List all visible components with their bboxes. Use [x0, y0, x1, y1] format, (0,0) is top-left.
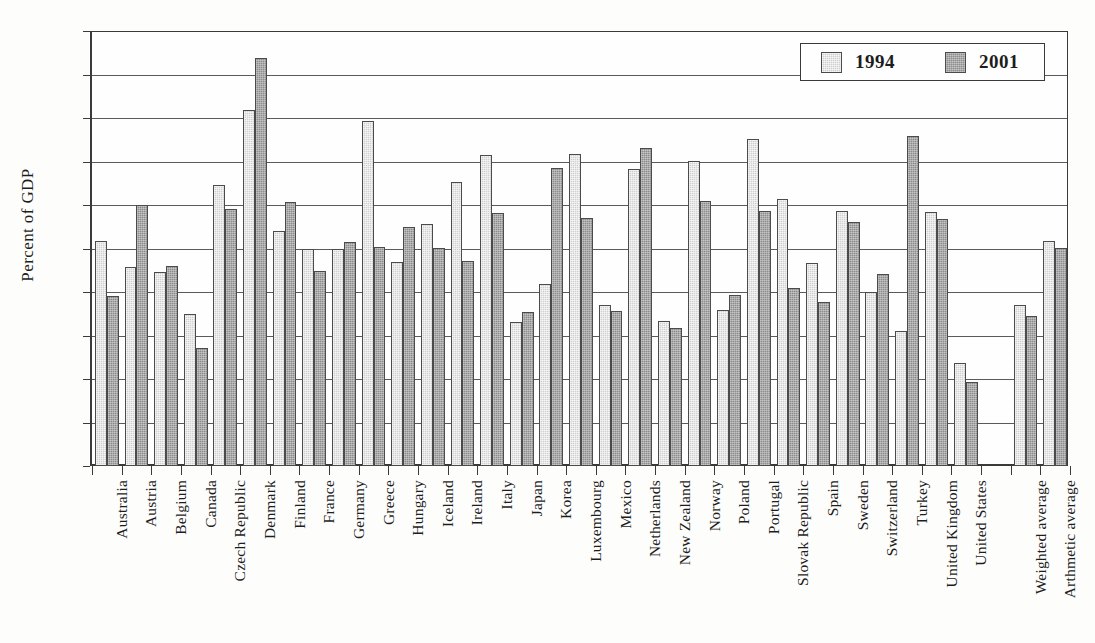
bar-group	[714, 32, 744, 466]
bar-group	[477, 32, 507, 466]
bar-2001	[729, 295, 741, 466]
y-axis-tick-mark	[83, 423, 90, 424]
bar-group	[655, 32, 685, 466]
x-axis-tick-label: Ireland	[468, 480, 486, 525]
x-axis-tick-mark	[329, 466, 330, 475]
bar-2001	[788, 288, 800, 466]
bar-1994	[391, 262, 403, 466]
y-axis-tick-mark	[83, 466, 90, 467]
bar-group	[566, 32, 596, 466]
bar-2001	[1026, 316, 1038, 467]
bar-1994	[510, 322, 522, 466]
x-axis-tick-mark	[685, 466, 686, 475]
bar-group	[1011, 32, 1041, 466]
legend-item-2001: 2001	[945, 51, 1019, 73]
x-axis-tick-label: Netherlands	[646, 480, 664, 557]
bar-1994	[836, 211, 848, 466]
bar-group	[270, 32, 300, 466]
bar-group	[240, 32, 270, 466]
x-axis-tick-mark	[714, 466, 715, 475]
x-axis-tick-mark	[151, 466, 152, 475]
x-axis-tick-mark	[270, 466, 271, 475]
x-axis-tick-mark	[418, 466, 419, 475]
x-axis-tick-mark	[181, 466, 182, 475]
bar-2001	[344, 242, 356, 466]
bar-group	[92, 32, 122, 466]
x-axis-tick-mark	[596, 466, 597, 475]
x-axis-tick-label: Finland	[291, 480, 309, 529]
bar-1994	[1043, 241, 1055, 466]
x-axis-tick-mark	[507, 466, 508, 475]
x-axis-tick-mark	[211, 466, 212, 475]
x-axis-tick-mark	[803, 466, 804, 475]
legend-swatch-2001-icon	[945, 52, 966, 73]
bar-2001	[492, 213, 504, 466]
y-axis-tick-mark	[83, 31, 90, 32]
x-axis-tick-mark	[774, 466, 775, 475]
x-axis-tick-label: Arthmetic average	[1061, 480, 1079, 598]
x-axis-tick-mark	[892, 466, 893, 475]
x-axis-tick-mark	[863, 466, 864, 475]
x-axis-tick-label: Luxembourg	[587, 480, 605, 562]
bar-group	[507, 32, 537, 466]
legend-item-1994: 1994	[821, 51, 895, 73]
x-axis-tick-label: Turkey	[913, 480, 931, 525]
bar-group	[537, 32, 567, 466]
x-axis-tick-label: Czech Republic	[231, 480, 249, 581]
bar-series-container	[92, 32, 1067, 466]
bar-2001	[107, 296, 119, 466]
x-axis-tick-mark	[240, 466, 241, 475]
x-axis-tick-label: Switzerland	[883, 480, 901, 556]
bar-2001	[166, 266, 178, 466]
bar-1994	[806, 263, 818, 466]
y-axis-tick-mark	[83, 118, 90, 119]
x-axis-tick-mark	[1011, 466, 1012, 475]
y-axis-tick-mark	[83, 75, 90, 76]
bar-2001	[225, 209, 237, 466]
y-axis-tick-mark	[83, 162, 90, 163]
bar-2001	[848, 222, 860, 466]
bar-group	[981, 32, 1011, 466]
x-axis-tick-mark	[951, 466, 952, 475]
bar-group	[625, 32, 655, 466]
x-axis-tick-label: New Zealand	[676, 480, 694, 565]
bar-1994	[243, 110, 255, 466]
x-axis-tick-mark	[1070, 466, 1071, 475]
bar-2001	[285, 202, 297, 466]
bar-2001	[1055, 248, 1067, 466]
bar-2001	[551, 168, 563, 466]
x-axis-tick-label: Weighted average	[1032, 480, 1050, 594]
x-axis-tick-mark	[1040, 466, 1041, 475]
x-axis-tick-mark	[981, 466, 982, 475]
bar-2001	[314, 271, 326, 466]
bar-1994	[362, 121, 374, 466]
x-axis-tick-mark	[122, 466, 123, 475]
x-axis-tick-label: Belgium	[172, 480, 190, 535]
bar-2001	[877, 274, 889, 466]
bar-group	[211, 32, 241, 466]
x-axis-tick-label: Germany	[350, 480, 368, 539]
bar-2001	[581, 218, 593, 466]
bar-group	[388, 32, 418, 466]
bar-2001	[907, 136, 919, 466]
bar-1994	[451, 182, 463, 466]
bar-2001	[640, 148, 652, 466]
x-axis-tick-mark	[92, 466, 93, 475]
x-axis-tick-label: Greece	[380, 480, 398, 525]
y-axis-tick-mark	[83, 336, 90, 337]
x-axis-tick-mark	[448, 466, 449, 475]
x-axis-tick-mark	[833, 466, 834, 475]
bar-1994	[273, 231, 285, 466]
bar-group	[774, 32, 804, 466]
bar-group	[151, 32, 181, 466]
legend-label-2001: 2001	[979, 51, 1019, 73]
bar-2001	[759, 211, 771, 466]
bar-1994	[421, 224, 433, 466]
bar-group	[1040, 32, 1070, 466]
x-axis-tick-mark	[744, 466, 745, 475]
x-axis-tick-label: Canada	[202, 480, 220, 528]
bar-group	[448, 32, 478, 466]
x-axis-tick-label: Austria	[142, 480, 160, 527]
y-axis-tick-mark	[83, 379, 90, 380]
x-axis-tick-label: Hungary	[409, 480, 427, 536]
